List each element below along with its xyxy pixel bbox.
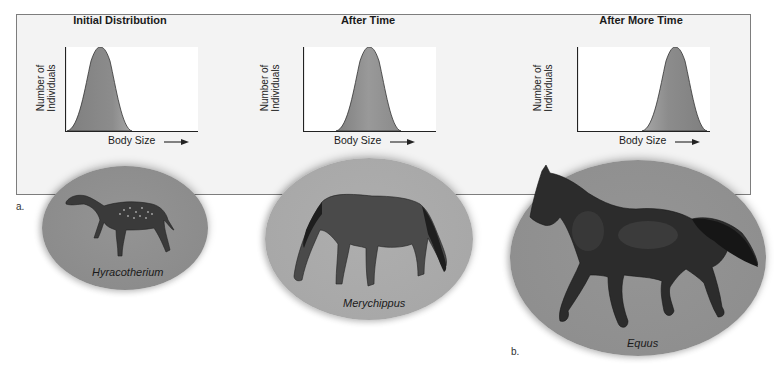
bell-curve — [577, 47, 712, 133]
y-axis-label-line2: Individuals — [46, 46, 57, 130]
y-axis-label-line2: Individuals — [543, 46, 554, 130]
chart-initial-distribution: Initial Distribution Number of Individua… — [0, 0, 240, 160]
y-axis-label-line1: Number of — [35, 46, 46, 130]
chart-after-time: After Time Number of Individuals Body Si… — [248, 0, 488, 160]
x-axis-label: Body Size — [108, 134, 189, 147]
y-axis-label-line1: Number of — [532, 46, 543, 130]
chart-after-more-time: After More Time Number of Individuals Bo… — [521, 0, 761, 160]
x-axis-label-text: Body Size — [619, 134, 666, 146]
part-label-a: a. — [16, 201, 24, 212]
equus-illustration — [528, 165, 758, 335]
species-label-merychippus: Merychippus — [343, 297, 405, 309]
y-axis-label: Number of Individuals — [259, 46, 285, 130]
part-label-b: b. — [511, 346, 519, 357]
x-axis-label: Body Size — [619, 134, 700, 147]
species-label-hyracotherium: Hyracotherium — [92, 266, 164, 278]
right-arrow-icon — [675, 135, 700, 147]
x-axis-label: Body Size — [334, 134, 415, 147]
y-axis-label-line2: Individuals — [270, 46, 281, 130]
chart-title: After Time — [248, 14, 488, 26]
hyracotherium-illustration — [64, 190, 184, 260]
bell-curve — [65, 47, 200, 133]
x-axis-label-text: Body Size — [334, 134, 381, 146]
y-axis-label-line1: Number of — [259, 46, 270, 130]
chart-title: Initial Distribution — [0, 14, 240, 26]
right-arrow-icon — [390, 135, 415, 147]
species-label-equus: Equus — [627, 337, 658, 349]
plot-area — [303, 47, 436, 131]
plot-area — [65, 47, 198, 131]
y-axis-label: Number of Individuals — [532, 46, 558, 130]
x-axis-label-text: Body Size — [108, 134, 155, 146]
bell-curve — [303, 47, 438, 133]
chart-title: After More Time — [521, 14, 761, 26]
plot-area — [577, 47, 710, 131]
right-arrow-icon — [164, 135, 189, 147]
y-axis-label: Number of Individuals — [35, 46, 61, 130]
merychippus-illustration — [292, 190, 452, 290]
